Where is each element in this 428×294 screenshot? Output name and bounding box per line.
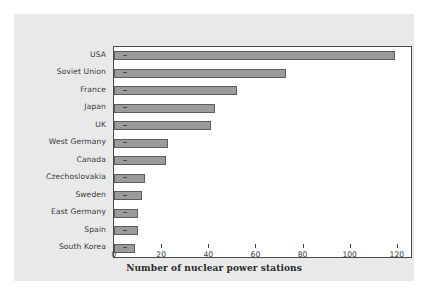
x-axis-tick-label: 0 — [112, 250, 117, 259]
x-axis-tick-mark — [397, 244, 398, 248]
x-axis-tick-mark — [350, 244, 351, 248]
x-axis: Number of nuclear power stations 0204060… — [14, 14, 414, 281]
x-axis-tick-label: 100 — [342, 250, 357, 259]
x-axis-tick-mark — [255, 244, 256, 248]
x-axis-tick-label: 20 — [156, 250, 166, 259]
figure-panel: USASoviet UnionFranceJapanUKWest Germany… — [14, 14, 414, 281]
x-axis-title: Number of nuclear power stations — [14, 263, 414, 273]
x-axis-tick-mark — [114, 244, 115, 248]
chart-screenshot: USASoviet UnionFranceJapanUKWest Germany… — [0, 0, 428, 294]
x-axis-tick-label: 80 — [298, 250, 308, 259]
x-axis-tick-mark — [303, 244, 304, 248]
x-axis-tick-mark — [161, 244, 162, 248]
x-axis-tick-label: 40 — [203, 250, 213, 259]
x-axis-tick-label: 120 — [390, 250, 405, 259]
x-axis-tick-mark — [208, 244, 209, 248]
x-axis-tick-label: 60 — [251, 250, 261, 259]
